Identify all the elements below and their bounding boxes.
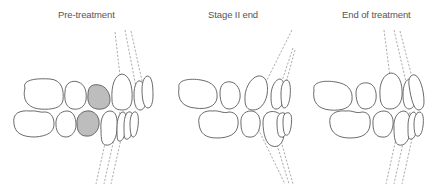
- dental-arch-diagram: [0, 0, 145, 192]
- upper-premolar-1: [220, 82, 240, 109]
- lower-premolar-1: [373, 111, 393, 137]
- upper-central-incisor: [281, 80, 290, 108]
- upper-molar: [24, 79, 63, 109]
- lower-canine: [101, 111, 117, 145]
- panel-pre-treatment: Pre-treatment: [0, 0, 145, 192]
- lower-molar: [199, 111, 238, 138]
- dental-arch-diagram: [290, 0, 435, 192]
- lower-central-incisor: [414, 112, 423, 136]
- lower-premolar-1: [241, 111, 260, 137]
- lower-incisor-3: [130, 112, 138, 137]
- panel-stage-ii-end: Stage II end: [145, 0, 290, 192]
- upper-premolar-2: [380, 73, 402, 109]
- upper-premolar-2: [88, 85, 110, 109]
- lower-molar: [330, 111, 370, 138]
- upper-molar: [179, 79, 218, 108]
- lower-premolar-2: [77, 111, 99, 136]
- upper-molar: [314, 81, 353, 110]
- lower-molar: [14, 111, 54, 137]
- dental-arch-diagram: [145, 0, 290, 192]
- upper-premolar-1: [356, 83, 376, 109]
- upper-canine: [112, 74, 132, 110]
- lower-premolar-1: [56, 111, 76, 137]
- upper-premolar-2: [245, 76, 268, 110]
- panel-end-of-treatment: End of treatment: [290, 0, 435, 192]
- upper-premolar-1: [65, 81, 86, 109]
